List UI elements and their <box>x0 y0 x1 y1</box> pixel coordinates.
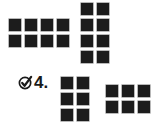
square-tile <box>57 35 69 47</box>
array-top-right <box>81 3 109 63</box>
square-tile <box>77 77 89 89</box>
square-tile <box>61 77 73 89</box>
array-top-left <box>9 19 69 47</box>
square-tile <box>25 19 37 31</box>
square-tile <box>138 85 150 97</box>
square-tile <box>106 101 118 113</box>
square-tile <box>77 109 89 121</box>
square-tile <box>97 51 109 63</box>
square-tile <box>81 3 93 15</box>
square-tile <box>9 35 21 47</box>
problem-label: 4. <box>18 75 48 90</box>
square-tile <box>9 19 21 31</box>
square-tile <box>106 85 118 97</box>
square-tile <box>57 19 69 31</box>
square-tile <box>97 35 109 47</box>
array-bottom-left <box>61 77 89 121</box>
array-bottom-right <box>106 85 150 113</box>
square-tile <box>25 35 37 47</box>
square-tile <box>138 101 150 113</box>
square-tile <box>41 35 53 47</box>
square-tile <box>81 51 93 63</box>
square-tile <box>61 93 73 105</box>
square-tile <box>122 101 134 113</box>
square-tile <box>97 19 109 31</box>
check-circle-icon <box>18 75 33 90</box>
square-tile <box>77 93 89 105</box>
square-tile <box>41 19 53 31</box>
square-tile <box>97 3 109 15</box>
problem-number: 4. <box>34 75 48 90</box>
square-tile <box>81 19 93 31</box>
square-tile <box>61 109 73 121</box>
square-tile <box>81 35 93 47</box>
square-tile <box>122 85 134 97</box>
